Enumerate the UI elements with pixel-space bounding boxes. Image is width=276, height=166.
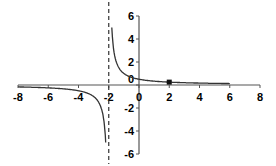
y-tick-label: -6 [124,148,134,160]
point-marker [167,80,172,85]
y-tick-label: 6 [128,10,134,22]
y-tick-label: 4 [128,33,135,45]
x-tick-label: -4 [74,91,85,103]
x-tick-label: 2 [166,91,172,103]
function-graph: -8-6-4-202468-6-4-22460 [0,0,276,166]
curve-left-branch [18,87,106,143]
x-tick-label: 4 [196,91,203,103]
x-tick-label: 0 [136,91,142,103]
x-tick-label: 8 [257,91,263,103]
x-tick-label: 6 [227,91,233,103]
axes [18,16,260,154]
x-tick-label: -8 [13,91,23,103]
x-tick-label: -6 [43,91,53,103]
y-tick-label: -2 [124,102,134,114]
y-tick-label: 2 [128,56,134,68]
y-tick-label: -4 [124,125,135,137]
y-tick-label-zero: 0 [128,73,134,85]
curves [18,2,230,164]
